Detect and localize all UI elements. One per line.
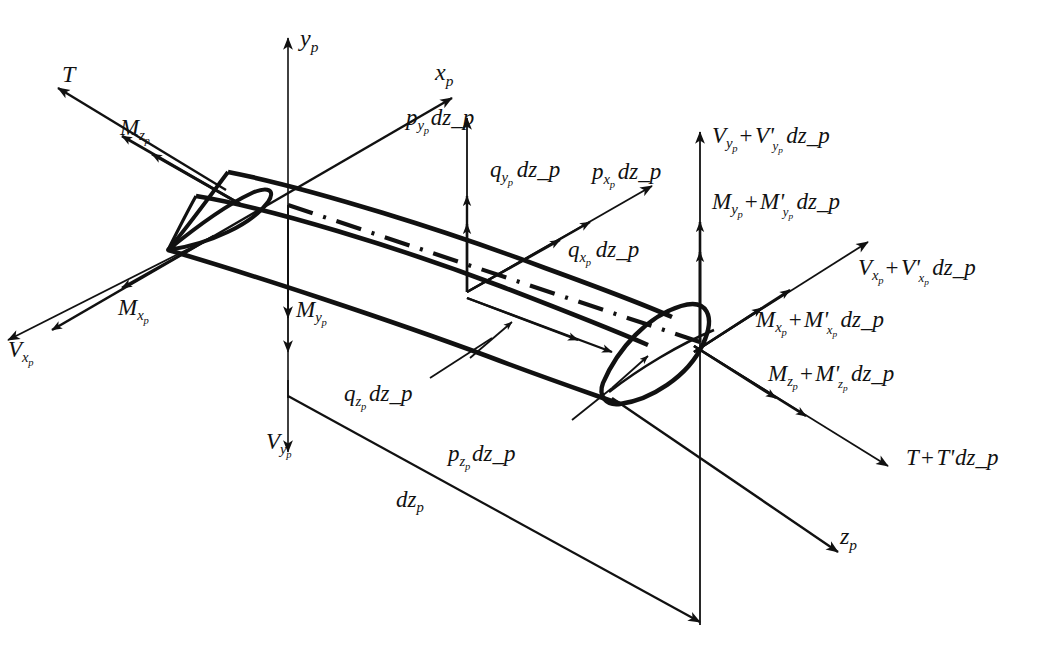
- label-dist-force-x: pxpdz_p: [592, 160, 661, 183]
- label-left-tension: T: [62, 62, 75, 86]
- label-right-tension: T+T'dz_p: [906, 446, 999, 469]
- label-left-shear-x: Vxp: [8, 338, 33, 361]
- label-dist-moment-z: qzpdz_p: [344, 382, 412, 405]
- label-right-shear-x: Vxp+V'xpdz_p: [858, 256, 976, 279]
- label-dist-moment-y: qypdz_p: [490, 158, 560, 181]
- label-right-moment-z: Mzp+M'zpdz_p: [768, 362, 894, 385]
- label-dimension-dz: dzp: [396, 488, 424, 511]
- beam-upper-rear-edge: [196, 196, 648, 345]
- label-right-moment-x: Mxp+M'xpdz_p: [756, 308, 884, 331]
- right-moment-x-arrow-b: [694, 308, 762, 352]
- label-right-moment-y: Myp+M'ypdz_p: [712, 190, 840, 213]
- left-shear-x-arrow: [8, 236, 214, 340]
- right-moment-z-arrow-b: [694, 346, 776, 398]
- beam-right-cross-section: [602, 304, 709, 404]
- elastic-axis-center-line: [288, 205, 700, 342]
- label-left-moment-x: Mxp: [118, 296, 148, 319]
- axis-label-z: zp: [840, 524, 857, 548]
- label-dist-force-y: pypdz_p: [406, 106, 474, 129]
- label-dist-force-z: pzpdz_p: [448, 442, 515, 465]
- dist-moment-z-tick-arrow: [470, 322, 512, 358]
- label-left-shear-y: Vyp: [266, 430, 291, 453]
- dim-line-dz: [288, 396, 700, 622]
- dist-force-z-arrow: [612, 356, 648, 388]
- axis-label-y: yp: [300, 26, 318, 50]
- axis-z-line: [612, 398, 838, 552]
- dist-moment-z-arrow-b: [467, 298, 578, 340]
- dist-moment-z-leader: [430, 338, 492, 378]
- label-left-moment-y: Myp: [296, 298, 326, 321]
- blade-element-diagram: yp xp zp T Mzp Mxp Vxp Myp Vyp pypdz_p q…: [0, 0, 1057, 663]
- label-left-moment-z: Mzp: [120, 116, 150, 139]
- axis-label-x: xp: [435, 60, 453, 84]
- label-right-shear-y: Vyp+V'ypdz_p: [712, 124, 830, 147]
- label-dist-moment-x: qxpdz_p: [568, 238, 639, 261]
- diagram-canvas: [0, 0, 1057, 663]
